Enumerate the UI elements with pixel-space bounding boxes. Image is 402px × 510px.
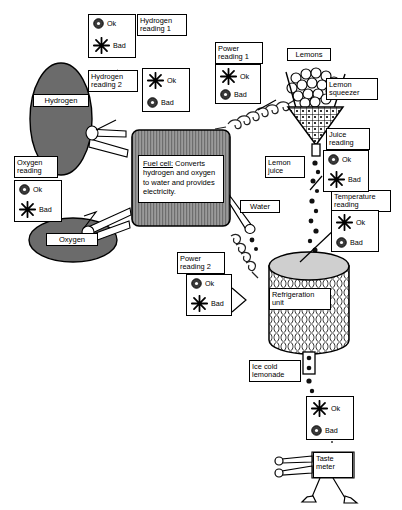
power-reading-2-ok-row: Ok [191,278,214,289]
taste-reading-bad-label: Bad [325,426,338,435]
taste-reading-ok-row: Ok [311,400,340,417]
starburst-icon [19,201,36,218]
juice-reading-bad-row: Bad [328,171,361,188]
hydrogen-reading-1-gauge[interactable]: OkBad [88,14,136,58]
oxygen-reading-title: Oxygen reading [14,156,58,178]
power-reading-1-title: Power reading 1 [215,42,263,64]
power-reading-1-bad-row: Bad [220,89,247,100]
power-reading-1-bad-label: Bad [234,90,247,99]
oxygen-reading-ok-row: Ok [19,184,42,195]
power-reading-2-ok-label: Ok [205,279,214,288]
starburst-icon [93,37,110,54]
lemons-label: Lemons [287,48,331,61]
oxygen-tank-label: Oxygen [46,233,98,246]
filled-circle-icon [328,154,339,165]
fuel-cell-description: Fuel cell: Converts hydrogen and oxygen … [138,155,224,203]
diagram-canvas: Hydrogen Oxygen Lemons Lemon squeezer Le… [0,0,402,510]
taste-reading-ok-label: Ok [331,404,340,413]
hydrogen-reading-2-title: Hydrogen reading 2 [88,70,138,92]
starburst-icon [220,68,237,85]
power-reading-2-gauge[interactable]: OkBad [186,274,232,316]
juice-reading-title: Juice reading [326,128,370,150]
water-label: Water [240,200,280,213]
hydrogen-reading-1-bad-label: Bad [113,41,126,50]
hydrogen-reading-2-bad-row: Bad [147,97,174,108]
temperature-reading-title: Temperature reading [331,190,391,212]
filled-circle-icon [147,97,158,108]
temperature-reading-ok-row: Ok [336,214,365,231]
hydrogen-reading-1-ok-label: Ok [107,19,116,28]
hydrogen-reading-2-ok-label: Ok [167,76,176,85]
juice-reading-ok-row: Ok [328,154,351,165]
power-reading-2-bad-label: Bad [211,299,224,308]
lemon-juice-label: Lemon juice [265,156,305,178]
juice-reading-ok-label: Ok [342,155,351,164]
power-reading-1-ok-row: Ok [220,68,249,85]
taste-reading-gauge[interactable]: OkBad [306,396,354,440]
hydrogen-reading-1-ok-row: Ok [93,18,116,29]
filled-circle-icon [19,184,30,195]
refrigeration-unit-shape [269,252,349,374]
refrigeration-unit-label: Refrigeration unit [269,288,331,310]
oxygen-reading-gauge[interactable]: OkBad [14,180,62,222]
power-reading-1-ok-label: Ok [240,72,249,81]
oxygen-reading-bad-row: Bad [19,201,52,218]
starburst-icon [191,295,208,312]
hydrogen-reading-2-gauge[interactable]: OkBad [142,68,190,112]
juice-reading-gauge[interactable]: OkBad [323,150,369,192]
power-reading-1-gauge[interactable]: OkBad [215,64,261,104]
temperature-reading-bad-row: Bad [336,237,363,248]
filled-circle-icon [220,89,231,100]
taste-meter-label: Taste meter [313,452,353,478]
power-reading-2-title: Power reading 2 [177,252,225,274]
hydrogen-reading-2-bad-label: Bad [161,98,174,107]
filled-circle-icon [93,18,104,29]
filled-circle-icon [336,237,347,248]
temperature-reading-gauge[interactable]: OkBad [331,210,379,252]
taste-reading-bad-row: Bad [311,425,338,436]
starburst-icon [328,171,345,188]
starburst-icon [311,400,328,417]
oxygen-reading-bad-label: Bad [39,205,52,214]
ice-cold-lemonade-label: Ice cold lemonade [249,360,301,382]
hydrogen-reading-1-bad-row: Bad [93,37,126,54]
starburst-icon [147,72,164,89]
hydrogen-tank-label: Hydrogen [33,94,89,107]
oxygen-reading-ok-label: Ok [33,185,42,194]
starburst-icon [336,214,353,231]
filled-circle-icon [191,278,202,289]
juice-reading-bad-label: Bad [348,175,361,184]
hydrogen-reading-2-ok-row: Ok [147,72,176,89]
temperature-reading-bad-label: Bad [350,238,363,247]
power-reading-2-bad-row: Bad [191,295,224,312]
temperature-reading-ok-label: Ok [356,218,365,227]
fuel-cell-title: Fuel cell: [143,159,173,168]
filled-circle-icon [311,425,322,436]
hydrogen-reading-1-title: Hydrogen reading 1 [137,14,187,36]
lemon-squeezer-label: Lemon squeezer [326,78,378,100]
